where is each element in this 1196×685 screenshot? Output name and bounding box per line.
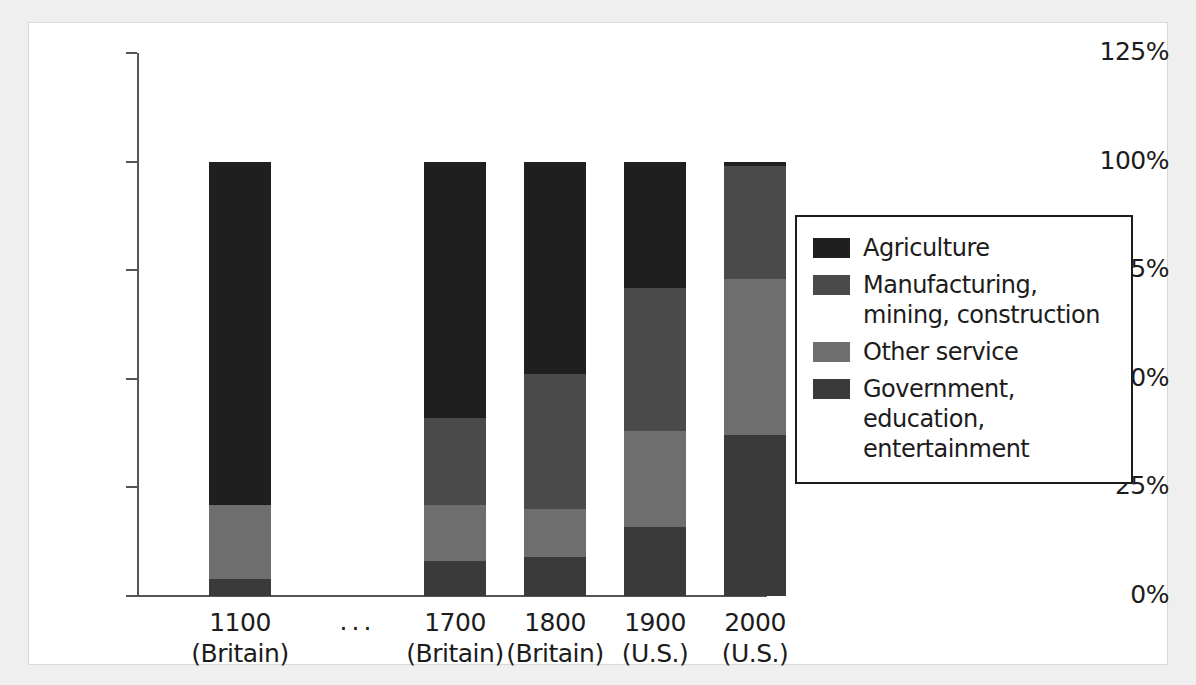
y-axis-tick [126, 269, 137, 271]
bar-segment [624, 431, 686, 527]
legend-swatch-icon [813, 342, 850, 362]
legend-label: Other service [863, 337, 1018, 367]
legend-swatch-icon [813, 238, 850, 258]
bar-segment [209, 579, 271, 596]
x-label-year: 1700 [424, 608, 486, 637]
bar-segment [424, 561, 486, 596]
bar-1700 [424, 53, 486, 596]
y-axis-tick-label: 125% [1081, 37, 1169, 66]
bar-segment [209, 505, 271, 579]
bar-1900 [624, 53, 686, 596]
bar-segment [624, 162, 686, 288]
bars-layer [137, 53, 767, 596]
x-label-region: (Britain) [165, 638, 315, 669]
x-axis-label-2000: 2000(U.S.) [680, 607, 830, 669]
legend-label: Government, education, entertainment [863, 374, 1117, 464]
bar-segment [624, 288, 686, 431]
x-label-year: 1900 [624, 608, 686, 637]
bar-2000 [724, 53, 786, 596]
legend-swatch-icon [813, 275, 850, 295]
legend-label: Manufacturing, mining, construction [863, 270, 1100, 330]
bar-1800 [524, 53, 586, 596]
bar-segment [524, 509, 586, 557]
x-label-year: 1100 [209, 608, 271, 637]
bar-segment [524, 557, 586, 596]
y-axis-tick-label: 100% [1081, 146, 1169, 175]
chart-plot-area: 0%25%50%75%100%125% 1100(Britain)1700(Br… [29, 23, 1169, 666]
bar-segment [524, 374, 586, 509]
legend-item: Other service [813, 337, 1117, 367]
x-axis-gap-ellipsis: ... [313, 607, 403, 636]
legend-item: Government, education, entertainment [813, 374, 1117, 464]
bar-segment [424, 162, 486, 418]
legend-item: Agriculture [813, 233, 1117, 263]
bar-segment [724, 162, 786, 166]
y-axis-tick [126, 595, 137, 597]
x-axis-label-1100: 1100(Britain) [165, 607, 315, 669]
y-axis-tick [126, 378, 137, 380]
bar-segment [424, 418, 486, 505]
y-axis-tick-label: 0% [1081, 580, 1169, 609]
chart-legend: AgricultureManufacturing, mining, constr… [795, 215, 1133, 484]
legend-swatch-icon [813, 379, 850, 399]
x-label-year: 2000 [724, 608, 786, 637]
y-axis-tick [126, 161, 137, 163]
chart-frame: 0%25%50%75%100%125% 1100(Britain)1700(Br… [28, 22, 1168, 665]
bar-segment [424, 505, 486, 561]
legend-label: Agriculture [863, 233, 990, 263]
y-axis-tick [126, 486, 137, 488]
bar-segment [624, 527, 686, 597]
x-label-region: (U.S.) [680, 638, 830, 669]
bar-segment [724, 166, 786, 279]
bar-segment [209, 162, 271, 505]
x-label-year: 1800 [524, 608, 586, 637]
bar-segment [724, 279, 786, 435]
y-axis-tick [126, 52, 137, 54]
bar-segment [724, 435, 786, 596]
bar-1100 [209, 53, 271, 596]
legend-item: Manufacturing, mining, construction [813, 270, 1117, 330]
bar-segment [524, 162, 586, 375]
